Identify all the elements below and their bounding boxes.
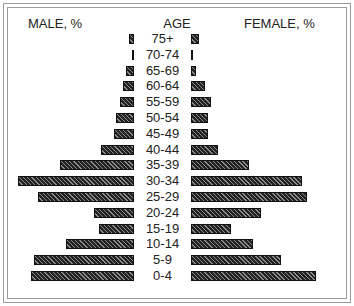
age-group-label: 15-19 [134,221,191,237]
female-bar [191,66,196,76]
age-group-label: 5-9 [134,252,191,268]
pyramid-row: 65-69 [0,63,354,79]
pyramid-row: 50-54 [0,110,354,126]
age-group-label: 25-29 [134,189,191,205]
male-axis-label: MALE, % [28,16,82,31]
male-bar [34,255,134,265]
pyramid-row: 15-19 [0,221,354,237]
age-group-label: 45-49 [134,126,191,142]
female-bar [191,34,199,44]
female-bar [191,129,208,139]
female-bar [191,145,218,155]
female-bar [191,176,302,186]
pyramid-row: 35-39 [0,157,354,173]
pyramid-row: 75+ [0,31,354,47]
pyramid-row: 55-59 [0,94,354,110]
pyramid-row: 10-14 [0,236,354,252]
male-bar [31,271,134,281]
age-group-label: 65-69 [134,63,191,79]
male-bar [60,160,134,170]
female-bar [191,97,211,107]
age-group-label: 10-14 [134,236,191,252]
age-group-label: 40-44 [134,142,191,158]
male-bar [99,224,134,234]
female-bar [191,113,208,123]
age-group-label: 20-24 [134,205,191,221]
male-bar [101,145,134,155]
male-bar [94,208,134,218]
age-group-label: 50-54 [134,110,191,126]
pyramid-row: 25-29 [0,189,354,205]
age-group-label: 60-64 [134,78,191,94]
pyramid-row: 45-49 [0,126,354,142]
male-bar [116,113,134,123]
age-group-label: 70-74 [134,47,191,63]
age-group-label: 75+ [134,31,191,47]
male-bar [114,129,134,139]
female-bar [191,160,249,170]
age-group-label: 35-39 [134,157,191,173]
male-bar [123,81,134,91]
pyramid-row: 30-34 [0,173,354,189]
pyramid-row: 0-4 [0,268,354,284]
age-axis-label: AGE [132,16,222,31]
pyramid-row: 70-74 [0,47,354,63]
male-bar [66,239,134,249]
pyramid-row: 5-9 [0,252,354,268]
age-group-label: 55-59 [134,94,191,110]
male-bar [120,97,134,107]
female-bar [191,208,261,218]
pyramid-row: 20-24 [0,205,354,221]
female-bar [191,239,253,249]
female-bar [191,50,193,60]
female-axis-label: FEMALE, % [244,16,315,31]
female-bar [191,81,205,91]
male-bar [18,176,134,186]
pyramid-row: 40-44 [0,142,354,158]
female-bar [191,255,281,265]
female-bar [191,192,307,202]
age-group-label: 30-34 [134,173,191,189]
female-bar [191,224,231,234]
female-bar [191,271,316,281]
male-bar [126,66,134,76]
male-bar [38,192,134,202]
pyramid-row: 60-64 [0,78,354,94]
age-group-label: 0-4 [134,268,191,284]
